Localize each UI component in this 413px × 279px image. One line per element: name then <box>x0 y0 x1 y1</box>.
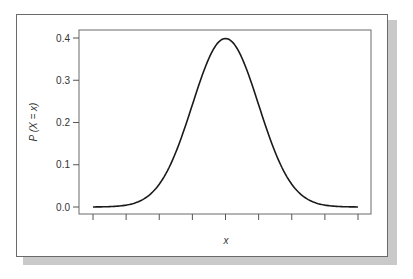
y-tick-label: 0.2 <box>56 117 70 128</box>
y-axis: 0.00.10.20.30.4 <box>56 33 79 213</box>
y-tick-label: 0.3 <box>56 75 70 86</box>
y-tick-label: 0.4 <box>56 33 70 44</box>
y-tick-label: 0.0 <box>56 202 70 213</box>
y-axis-title: P (X = x) <box>28 103 39 142</box>
x-axis-title: x <box>223 235 230 246</box>
chart-svg: 0.00.10.20.30.4 x P (X = x) <box>0 0 413 279</box>
y-tick-label: 0.1 <box>56 159 70 170</box>
x-axis <box>93 214 358 220</box>
plot-frame <box>79 30 371 214</box>
